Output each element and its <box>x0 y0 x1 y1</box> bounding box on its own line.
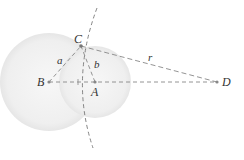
point-b <box>47 80 50 83</box>
label-c: C <box>74 32 83 46</box>
point-a <box>93 80 96 83</box>
label-d: D <box>221 75 231 89</box>
label-segment-r: r <box>148 51 153 63</box>
label-a-point: A <box>90 85 99 99</box>
label-b: B <box>37 75 45 89</box>
geometry-diagram: C B A D a b r <box>0 0 244 160</box>
label-segment-b: b <box>94 58 100 70</box>
diagram-canvas: C B A D a b r <box>0 0 244 160</box>
point-d <box>215 80 218 83</box>
label-segment-a: a <box>57 54 63 66</box>
